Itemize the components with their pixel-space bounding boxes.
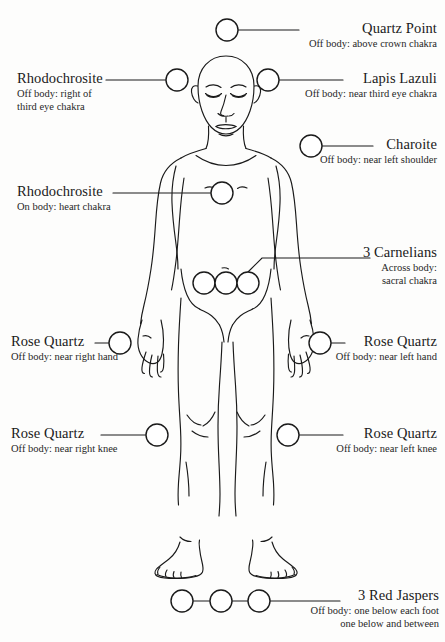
- callout-lapis-lazuli: Lapis LazuliOff body: near third eye cha…: [305, 70, 437, 100]
- callout-subtitle: Off body: near left knee: [336, 442, 437, 455]
- callout-rose-quartz-left-knee: Rose QuartzOff body: near left knee: [336, 425, 437, 455]
- crystal-marker-rose-quartz-left-hand[interactable]: [309, 332, 331, 354]
- crystal-marker-rose-quartz-right-knee[interactable]: [146, 424, 168, 446]
- callout-subtitle: Off body: right of: [17, 87, 103, 100]
- crystal-marker-carnelian-1[interactable]: [193, 272, 215, 294]
- crystal-marker-carnelian-3[interactable]: [237, 272, 259, 294]
- callout-title: Rhodochrosite: [17, 70, 103, 87]
- callout-subtitle: Off body: near left hand: [336, 350, 437, 363]
- callout-subtitle: one below and between: [311, 617, 439, 630]
- callout-title: Lapis Lazuli: [305, 70, 437, 87]
- crystal-layout-diagram: Quartz PointOff body: above crown chakra…: [0, 0, 445, 642]
- crystal-marker-rhodochrosite-third-eye[interactable]: [166, 69, 188, 91]
- callout-rhodochrosite-third-eye: RhodochrositeOff body: right ofthird eye…: [17, 70, 103, 113]
- callout-subtitle: Off body: one below each foot: [311, 604, 439, 617]
- callout-rose-quartz-right-knee: Rose QuartzOff body: near right knee: [11, 425, 118, 455]
- callout-subtitle: Off body: near right hand: [11, 350, 118, 363]
- callout-subtitle: Off body: near left shoulder: [320, 153, 437, 166]
- callout-charoite: CharoiteOff body: near left shoulder: [320, 136, 437, 166]
- callout-rose-quartz-right-hand: Rose QuartzOff body: near right hand: [11, 333, 118, 363]
- callout-subtitle: third eye chakra: [17, 100, 103, 113]
- crystal-marker-rhodochrosite-heart[interactable]: [211, 182, 233, 204]
- crystal-marker-quartz-point[interactable]: [216, 19, 238, 41]
- callout-subtitle: Off body: above crown chakra: [309, 37, 437, 50]
- crystal-marker-red-jasper-2[interactable]: [210, 590, 232, 612]
- callout-subtitle: On body: heart chakra: [17, 200, 111, 213]
- callout-title: Rose Quartz: [11, 333, 118, 350]
- callout-subtitle: Off body: near third eye chakra: [305, 87, 437, 100]
- crystal-marker-charoite[interactable]: [300, 135, 322, 157]
- callout-title: Rhodochrosite: [17, 183, 111, 200]
- callout-carnelians: 3 CarneliansAcross body:sacral chakra: [363, 244, 437, 287]
- callout-title: 3 Carnelians: [363, 244, 437, 261]
- callout-subtitle: Off body: near right knee: [11, 442, 118, 455]
- callout-title: 3 Red Jaspers: [311, 587, 439, 604]
- leader-line-carnelians: [248, 258, 370, 272]
- callout-title: Quartz Point: [309, 20, 437, 37]
- crystal-marker-carnelian-2[interactable]: [215, 272, 237, 294]
- callout-quartz-point: Quartz PointOff body: above crown chakra: [309, 20, 437, 50]
- crystal-marker-red-jasper-3[interactable]: [248, 590, 270, 612]
- callout-title: Charoite: [320, 136, 437, 153]
- callout-rose-quartz-left-hand: Rose QuartzOff body: near left hand: [336, 333, 437, 363]
- callout-title: Rose Quartz: [336, 333, 437, 350]
- crystal-marker-red-jasper-1[interactable]: [171, 590, 193, 612]
- crystal-marker-lapis-lazuli[interactable]: [257, 69, 279, 91]
- callout-subtitle: Across body:: [363, 261, 437, 274]
- callout-subtitle: sacral chakra: [363, 274, 437, 287]
- callout-rhodochrosite-heart: RhodochrositeOn body: heart chakra: [17, 183, 111, 213]
- crystal-marker-rose-quartz-left-knee[interactable]: [277, 424, 299, 446]
- callout-title: Rose Quartz: [336, 425, 437, 442]
- callout-red-jaspers: 3 Red JaspersOff body: one below each fo…: [311, 587, 439, 630]
- callout-title: Rose Quartz: [11, 425, 118, 442]
